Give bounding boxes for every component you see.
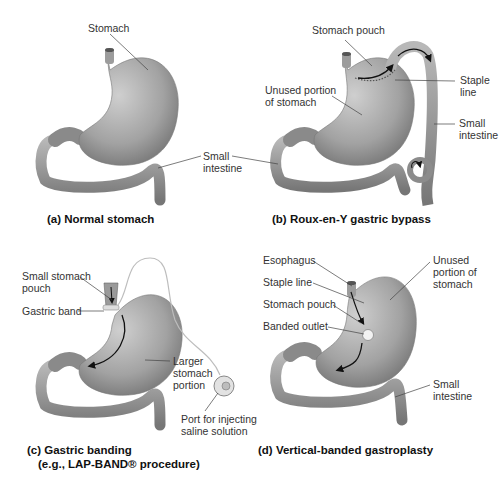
label-small-intestine-b-2: intestine [459, 129, 498, 141]
label-larger-stomach-3: portion [173, 379, 205, 391]
label-port-2: saline solution [181, 425, 248, 437]
label-unused-portion-b-1: Unused portion [265, 84, 336, 96]
label-small-intestine-shared-2: intestine [203, 162, 242, 174]
label-small-intestine-d-2: intestine [433, 390, 472, 402]
label-stomach-pouch-d: Stomach pouch [263, 298, 336, 310]
label-banded-outlet: Banded outlet [263, 320, 328, 332]
label-small-intestine-b-1: Small [459, 117, 485, 129]
label-small-intestine-shared-1: Small [203, 150, 229, 162]
label-larger-stomach-2: stomach [173, 367, 213, 379]
label-unused-portion-d-1: Unused [433, 254, 469, 266]
label-unused-portion-d-2: portion of [433, 266, 477, 278]
label-gastric-band: Gastric band [22, 305, 82, 317]
caption-normal-stomach: (a) Normal stomach [47, 212, 154, 226]
label-stomach-pouch-b: Stomach pouch [312, 24, 385, 36]
label-staple-line-d: Staple line [263, 276, 312, 288]
gastric-banding-illustration [41, 258, 234, 425]
label-stomach: Stomach [88, 22, 129, 34]
caption-roux-en-y: (b) Roux-en-Y gastric bypass [272, 212, 431, 226]
label-staple-line-b-2: line [460, 86, 476, 98]
label-unused-portion-b-2: of stomach [265, 96, 316, 108]
label-port-1: Port for injecting [181, 413, 257, 425]
label-small-stomach-pouch-2: pouch [22, 282, 51, 294]
roux-en-y-illustration [276, 47, 433, 205]
normal-stomach-illustration [41, 48, 178, 200]
label-unused-portion-d-3: stomach [433, 278, 473, 290]
caption-gastric-banding-2: (e.g., LAP-BAND® procedure) [38, 457, 200, 471]
label-small-intestine-d-1: Small [433, 378, 459, 390]
label-esophagus: Esophagus [263, 254, 316, 266]
label-small-stomach-pouch-1: Small stomach [22, 270, 91, 282]
caption-gastric-banding-1: (c) Gastric banding [27, 443, 132, 457]
label-staple-line-b-1: Staple [460, 74, 490, 86]
caption-vertical-banded-gastroplasty: (d) Vertical-banded gastroplasty [258, 443, 433, 457]
label-larger-stomach-1: Larger [173, 355, 203, 367]
